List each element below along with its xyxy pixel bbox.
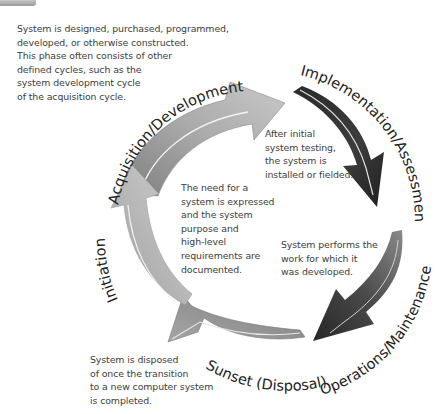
phase-label-initiation: Initiation	[92, 238, 121, 305]
phase-label-sunset: Sunset (Disposal)	[203, 357, 328, 394]
implementation-description: After initial system testing, the system…	[265, 127, 353, 181]
sunset-arrow	[168, 296, 305, 342]
acquisition-description: System is designed, purchased, programme…	[17, 22, 229, 104]
initiation-description: The need for a system is expressed and t…	[181, 181, 274, 276]
sunset-description: System is disposed of once the transitio…	[90, 353, 213, 407]
operations-description: System performs the work for which it wa…	[281, 238, 378, 279]
